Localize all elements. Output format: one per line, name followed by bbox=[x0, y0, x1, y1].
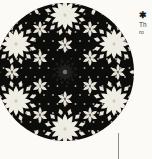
caption-line-1: Th bbox=[139, 21, 152, 29]
rosette-illustration bbox=[0, 0, 136, 141]
document-page: ✱ Th ro bbox=[0, 0, 152, 159]
rose-window-figure bbox=[0, 0, 136, 141]
figure-annotation: ✱ Th ro bbox=[139, 11, 152, 36]
asterisk-star-marker: ✱ bbox=[139, 11, 152, 21]
leader-line bbox=[118, 133, 119, 159]
caption-line-2: ro bbox=[139, 29, 152, 36]
